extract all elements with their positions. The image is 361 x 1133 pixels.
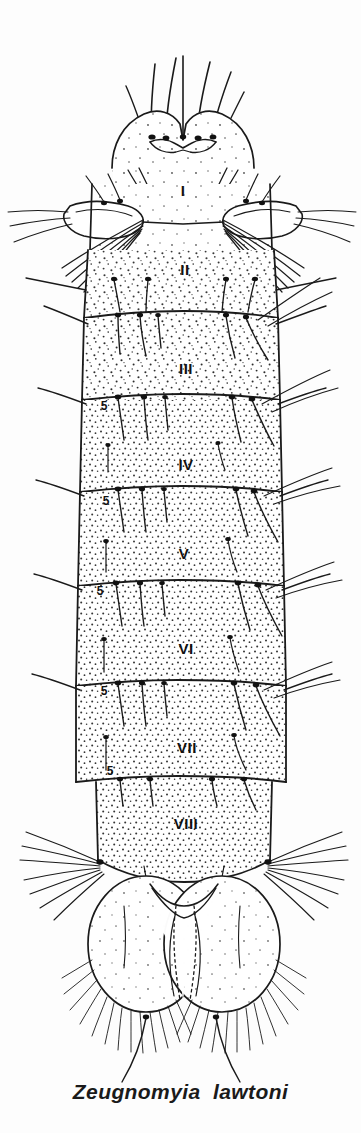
segment-label-0: I <box>181 182 186 199</box>
segment-label-6: VII <box>177 739 197 756</box>
seta-label-2: 5 <box>97 584 104 598</box>
larva-illustration: IIIIIIIVVVIVIIVIII 55555 <box>0 0 361 1133</box>
seta-label-3: 5 <box>101 684 108 698</box>
segment-label-1: II <box>180 261 189 278</box>
seta-label-1: 5 <box>103 494 110 508</box>
caudal-filaments <box>122 1018 240 1082</box>
seta-label-4: 5 <box>107 764 114 778</box>
figure-root: IIIIIIIVVVIVIIVIII 55555 Zeugnomyia lawt… <box>0 0 361 1133</box>
segment-label-3: IV <box>178 456 193 473</box>
segment-label-4: V <box>179 545 190 562</box>
caudal-seta-fan-right <box>264 832 348 920</box>
caudal-seta-fan-left <box>20 832 104 920</box>
figure-caption: Zeugnomyia lawtoni <box>0 1080 361 1104</box>
segment-label-5: VI <box>178 640 193 657</box>
terminal-lobes-group <box>62 876 306 1082</box>
segment-label-7: VIII <box>174 815 199 832</box>
seta-label-0: 5 <box>101 399 108 413</box>
segment-label-2: III <box>179 360 193 377</box>
